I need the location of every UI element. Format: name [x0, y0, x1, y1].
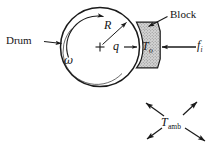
block-temperature-label: To: [142, 40, 152, 52]
friction-force-label: fi: [197, 39, 202, 51]
ambient-arrow-up-right-icon: [183, 102, 197, 115]
friction-force-base: f: [197, 38, 200, 52]
ambient-temperature-base: T: [161, 115, 168, 129]
drum-label: Drum: [6, 35, 32, 46]
block-label: Block: [170, 9, 196, 20]
ambient-arrow-down-left-icon: [147, 128, 162, 139]
ambient-temperature-subscript: amb: [168, 122, 181, 131]
ambient-temperature-label: Tamb: [161, 116, 181, 128]
radius-label: R: [104, 19, 111, 31]
angular-velocity-label: ω: [64, 55, 73, 66]
figure-canvas: Drum Block ω R q To fi Tamb: [0, 0, 217, 154]
heat-flux-label: q: [113, 40, 119, 52]
ambient-arrow-down-right-icon: [185, 128, 205, 141]
block-temperature-base: T: [142, 39, 149, 53]
block-temperature-subscript: o: [149, 46, 153, 55]
friction-force-subscript: i: [201, 45, 203, 54]
drum-leader-arrow: [44, 42, 62, 44]
